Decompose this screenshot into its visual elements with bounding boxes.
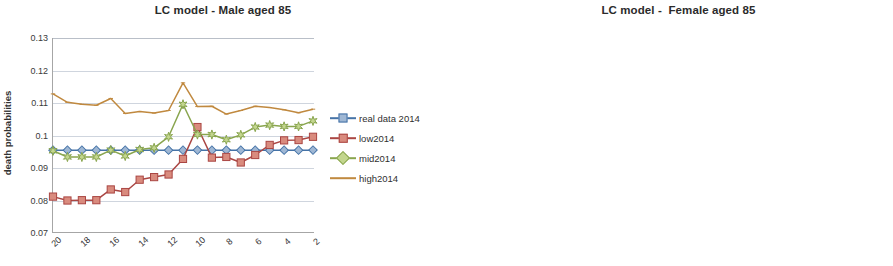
- x-tick-label: 10: [194, 235, 208, 249]
- data-point-low: [237, 159, 244, 166]
- data-point-low: [151, 174, 158, 181]
- legend-label-real: real data 2014: [359, 113, 420, 124]
- data-point-mid: [222, 135, 230, 144]
- data-point-real: [237, 146, 245, 154]
- data-point-real: [309, 146, 317, 154]
- data-point-low: [266, 141, 273, 148]
- legend-marker-mid-icon: [330, 152, 356, 164]
- legend-marker-low-icon: [330, 132, 356, 144]
- data-point-real: [294, 146, 302, 154]
- data-point-low: [281, 137, 288, 144]
- chart-female-aged-85: LC model - Female aged 85 death probabil…: [446, 0, 893, 266]
- x-tick-label: 14: [136, 235, 150, 249]
- data-point-low: [122, 188, 129, 195]
- x-tick-label: 2: [311, 236, 321, 247]
- data-point-low: [208, 154, 215, 161]
- data-point-real: [164, 146, 172, 154]
- chart-male-aged-85: LC model - Male aged 85 death probabilit…: [0, 0, 446, 266]
- y-tick-label: 0.12: [30, 66, 48, 76]
- legend-label-mid: mid2014: [359, 153, 395, 164]
- legend-label-high: high2014: [359, 173, 398, 184]
- legend-marker-real-icon: [330, 112, 356, 124]
- data-point-low: [309, 133, 316, 140]
- x-tick-label: 16: [107, 235, 121, 249]
- plot-area-male: [52, 38, 314, 233]
- data-point-mid: [121, 151, 129, 160]
- series-line-low: [53, 127, 313, 200]
- legend-marker-high-icon: [330, 172, 356, 184]
- data-point-low: [78, 197, 85, 204]
- legend-label-low: low2014: [359, 133, 394, 144]
- y-tick-label: 0.09: [30, 163, 48, 173]
- x-tick-label: 12: [165, 235, 179, 249]
- data-point-low: [295, 136, 302, 143]
- chart-title-male: LC model - Male aged 85: [0, 4, 446, 16]
- legend-item-real[interactable]: real data 2014: [330, 108, 446, 128]
- data-point-mid: [237, 130, 245, 139]
- y-tick-label: 0.13: [30, 33, 48, 43]
- data-point-mid: [309, 116, 317, 125]
- legend-item-mid[interactable]: mid2014: [330, 148, 446, 168]
- data-point-real: [193, 146, 201, 154]
- data-point-low: [107, 186, 114, 193]
- data-point-low: [165, 171, 172, 178]
- data-point-mid: [165, 132, 173, 141]
- data-point-low: [136, 176, 143, 183]
- x-tick-label: 8: [224, 236, 234, 247]
- x-tick-label: 4: [282, 236, 292, 247]
- legend-item-high[interactable]: high2014: [330, 168, 446, 188]
- data-point-low: [179, 155, 186, 162]
- x-tick-label: 20: [49, 235, 63, 249]
- x-axis-ticks-male: 2018161412108642: [52, 238, 314, 264]
- y-tick-label: 0.1: [35, 131, 48, 141]
- y-axis-label-male: death probabilities: [2, 73, 13, 193]
- series-layer-male: [52, 38, 314, 233]
- data-point-low: [93, 197, 100, 204]
- legend-item-low[interactable]: low2014: [330, 128, 446, 148]
- data-point-low: [64, 197, 71, 204]
- data-point-real: [280, 146, 288, 154]
- y-tick-label: 0.11: [31, 98, 48, 108]
- data-point-mid: [179, 100, 187, 109]
- x-tick-label: 18: [78, 235, 92, 249]
- y-axis-ticks-male: 0.070.080.090.10.110.120.13: [14, 38, 48, 233]
- data-point-low: [252, 151, 259, 158]
- legend-male: real data 2014low2014mid2014high2014: [330, 108, 446, 188]
- data-point-low: [49, 193, 56, 200]
- data-point-low: [223, 153, 230, 160]
- y-tick-label: 0.07: [30, 228, 48, 238]
- y-tick-label: 0.08: [30, 196, 48, 206]
- x-tick-label: 6: [253, 236, 263, 247]
- chart-title-female: LC model - Female aged 85: [446, 4, 893, 16]
